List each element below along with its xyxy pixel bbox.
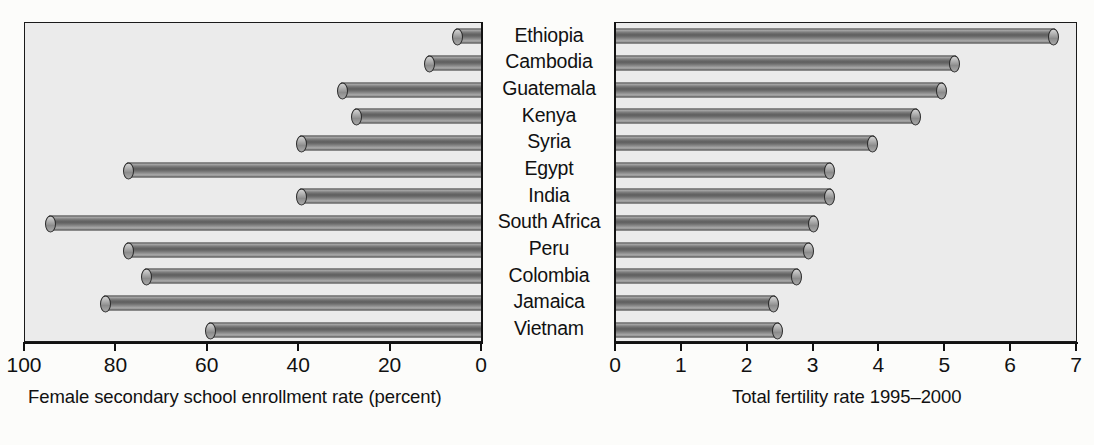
- axis-tick: [877, 342, 879, 351]
- axis-tick-label: 60: [195, 353, 218, 377]
- category-label: Cambodia: [486, 49, 612, 76]
- bar-row: [25, 263, 482, 290]
- axis-tick: [943, 342, 945, 351]
- axis-tick-label: 4: [873, 353, 885, 377]
- axis-tick: [1009, 342, 1011, 351]
- right-axis-ticks: [615, 342, 1078, 351]
- right-axis-tick-labels: 01234567: [615, 353, 1078, 379]
- bar-row: [615, 156, 1076, 183]
- left-zero-axis-spine: [481, 22, 483, 342]
- bar-row: [615, 50, 1076, 77]
- axis-tick-label: 6: [1004, 353, 1016, 377]
- axis-tick-label: 1: [675, 353, 687, 377]
- bar-row: [25, 183, 482, 210]
- axis-tick-label: 5: [938, 353, 950, 377]
- right-plot-panel: [615, 22, 1077, 342]
- axis-tick: [1075, 342, 1077, 351]
- category-label: Vietnam: [486, 315, 612, 342]
- bar: [127, 242, 483, 257]
- bar-row: [25, 23, 482, 50]
- bar-row: [25, 103, 482, 130]
- left-axis-tick-labels: 100806040200: [24, 353, 483, 379]
- axis-tick-label: 3: [807, 353, 819, 377]
- left-axis-ticks: [24, 342, 483, 351]
- axis-tick-label: 20: [378, 353, 401, 377]
- bar: [614, 82, 943, 97]
- right-axis-title: Total fertility rate 1995–2000: [732, 386, 961, 408]
- bar: [614, 162, 831, 177]
- axis-tick-label: 0: [475, 353, 487, 377]
- bar: [456, 29, 483, 44]
- axis-tick: [680, 342, 682, 351]
- bar: [127, 162, 483, 177]
- bar: [614, 215, 815, 230]
- axis-tick-label: 100: [6, 353, 41, 377]
- bar: [614, 322, 779, 337]
- bar: [614, 109, 917, 124]
- left-plot-panel: [24, 22, 482, 342]
- axis-tick: [480, 342, 482, 351]
- bar-row: [25, 50, 482, 77]
- bar-row: [615, 263, 1076, 290]
- bar: [104, 295, 483, 310]
- bar-row: [615, 103, 1076, 130]
- category-label: India: [486, 182, 612, 209]
- bar-row: [615, 236, 1076, 263]
- category-label: Kenya: [486, 102, 612, 129]
- bar-row: [25, 130, 482, 157]
- bar: [614, 242, 810, 257]
- bar-row: [25, 236, 482, 263]
- bar-row: [25, 156, 482, 183]
- bar: [145, 269, 483, 284]
- right-zero-axis-spine: [614, 22, 616, 342]
- left-bar-rows: [25, 23, 482, 341]
- axis-tick: [389, 342, 391, 351]
- bar: [300, 135, 483, 150]
- axis-tick-label: 2: [741, 353, 753, 377]
- bar: [428, 55, 483, 70]
- category-label: Guatemala: [486, 75, 612, 102]
- axis-tick: [746, 342, 748, 351]
- axis-tick: [206, 342, 208, 351]
- left-axis-title: Female secondary school enrollment rate …: [28, 386, 442, 408]
- category-label: Colombia: [486, 262, 612, 289]
- bar: [209, 322, 483, 337]
- bar-row: [615, 76, 1076, 103]
- bar-row: [25, 210, 482, 237]
- bar: [341, 82, 483, 97]
- bar-row: [615, 290, 1076, 317]
- category-label: Syria: [486, 129, 612, 156]
- axis-tick: [114, 342, 116, 351]
- bar: [614, 269, 798, 284]
- axis-tick-label: 0: [609, 353, 621, 377]
- category-label: Ethiopia: [486, 22, 612, 49]
- axis-tick-label: 40: [287, 353, 310, 377]
- axis-tick: [614, 342, 616, 351]
- category-label: Egypt: [486, 155, 612, 182]
- bar: [300, 189, 483, 204]
- bar-row: [25, 76, 482, 103]
- axis-tick: [297, 342, 299, 351]
- bar: [355, 109, 483, 124]
- axis-tick-label: 7: [1070, 353, 1082, 377]
- bar-row: [615, 210, 1076, 237]
- axis-tick: [23, 342, 25, 351]
- axis-tick: [812, 342, 814, 351]
- bar-row: [615, 130, 1076, 157]
- bar-row: [615, 316, 1076, 343]
- bar-row: [25, 316, 482, 343]
- category-label: South Africa: [486, 209, 612, 236]
- bar: [614, 295, 775, 310]
- bar-row: [25, 290, 482, 317]
- bar-row: [615, 23, 1076, 50]
- category-label: Peru: [486, 235, 612, 262]
- chart-figure: EthiopiaCambodiaGuatemalaKenyaSyriaEgypt…: [0, 0, 1094, 445]
- category-label-column: EthiopiaCambodiaGuatemalaKenyaSyriaEgypt…: [486, 22, 612, 342]
- axis-tick-label: 80: [104, 353, 127, 377]
- category-label: Jamaica: [486, 289, 612, 316]
- bar: [49, 215, 483, 230]
- bar: [614, 135, 874, 150]
- bar: [614, 189, 831, 204]
- bar: [614, 29, 1055, 44]
- bar-row: [615, 183, 1076, 210]
